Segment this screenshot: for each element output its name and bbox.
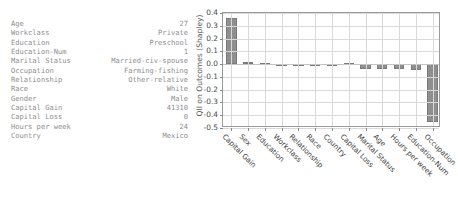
- y-tick-label: -0.3: [190, 97, 218, 106]
- gridline-horizontal: [223, 51, 439, 52]
- shapley-bar-chart: QII on Outcomes (Shapley) 0.40.30.20.10.…: [182, 0, 454, 200]
- feature-row: OccupationFarming-fishing: [11, 66, 188, 75]
- gridline-vertical: [399, 13, 400, 126]
- gridline-horizontal: [223, 64, 439, 65]
- feature-row: Marital StatusMarried-civ-spouse: [11, 56, 188, 65]
- gridline-vertical: [366, 13, 367, 126]
- gridline-horizontal: [223, 26, 439, 27]
- y-tick-mark: [220, 39, 223, 40]
- y-tick-label: 0.1: [190, 46, 218, 55]
- gridline-vertical: [248, 13, 249, 126]
- feature-row: RelationshipOther-relative: [11, 75, 188, 84]
- feature-value: Farming-fishing: [124, 66, 188, 75]
- y-tick-mark: [220, 102, 223, 103]
- y-tick-mark: [220, 77, 223, 78]
- feature-name: Capital Loss: [11, 112, 62, 121]
- feature-row: Capital Gain41310: [11, 103, 188, 112]
- feature-name: Education: [11, 38, 49, 47]
- y-tick-mark: [220, 26, 223, 27]
- gridline-horizontal: [223, 115, 439, 116]
- feature-row: WorkclassPrivate: [11, 28, 188, 37]
- y-tick-mark: [220, 90, 223, 91]
- feature-name: Capital Gain: [11, 103, 62, 112]
- y-tick-mark: [220, 115, 223, 116]
- feature-name: Education-Num: [11, 47, 67, 56]
- gridline-horizontal: [223, 39, 439, 40]
- gridline-vertical: [433, 13, 434, 126]
- y-tick-mark: [220, 64, 223, 65]
- gridline-horizontal: [223, 13, 439, 14]
- y-tick-label: -0.1: [190, 71, 218, 80]
- x-axis-tick-labels: Capital GainSexEducationWorkclassRelatio…: [222, 128, 452, 200]
- gridline-horizontal: [223, 102, 439, 103]
- feature-name: Gender: [11, 94, 37, 103]
- feature-name: Workclass: [11, 28, 49, 37]
- y-tick-label: 0.4: [190, 8, 218, 17]
- y-tick-label: 0.2: [190, 33, 218, 42]
- feature-name: Hours per week: [11, 122, 71, 131]
- feature-row: Age27: [11, 19, 188, 28]
- feature-row: Capital Loss0: [11, 112, 188, 121]
- feature-row: CountryMexico: [11, 131, 188, 140]
- gridline-vertical: [265, 13, 266, 126]
- gridline-vertical: [349, 13, 350, 126]
- feature-name: Country: [11, 131, 41, 140]
- bars-group: [223, 13, 439, 126]
- gridline-horizontal: [223, 90, 439, 91]
- gridline-vertical: [332, 13, 333, 126]
- gridline-vertical: [315, 13, 316, 126]
- y-tick-label: 0.3: [190, 20, 218, 29]
- feature-name: Age: [11, 19, 24, 28]
- feature-row: Hours per week24: [11, 122, 188, 131]
- feature-value: Married-civ-spouse: [111, 56, 188, 65]
- feature-name: Marital Status: [11, 56, 71, 65]
- feature-row: GenderMale: [11, 94, 188, 103]
- y-axis-tick-labels: 0.40.30.20.10.0-0.1-0.2-0.3-0.4-0.5: [182, 0, 218, 200]
- y-tick-label: -0.5: [190, 123, 218, 132]
- plot-area: [222, 12, 440, 127]
- feature-value: Other-relative: [128, 75, 188, 84]
- gridline-horizontal: [223, 77, 439, 78]
- y-tick-mark: [220, 13, 223, 14]
- gridline-vertical: [416, 13, 417, 126]
- gridline-vertical: [282, 13, 283, 126]
- y-tick-mark: [220, 51, 223, 52]
- gridline-vertical: [382, 13, 383, 126]
- feature-name: Occupation: [11, 66, 54, 75]
- y-tick-label: -0.4: [190, 110, 218, 119]
- feature-row: EducationPreschool: [11, 38, 188, 47]
- feature-value-table: Age27WorkclassPrivateEducationPreschoolE…: [11, 19, 188, 140]
- gridline-vertical: [231, 13, 232, 126]
- y-tick-label: -0.2: [190, 84, 218, 93]
- feature-name: Relationship: [11, 75, 62, 84]
- y-tick-label: 0.0: [190, 59, 218, 68]
- gridline-vertical: [298, 13, 299, 126]
- feature-row: Education-Num1: [11, 47, 188, 56]
- feature-row: RaceWhite: [11, 84, 188, 93]
- feature-name: Race: [11, 84, 28, 93]
